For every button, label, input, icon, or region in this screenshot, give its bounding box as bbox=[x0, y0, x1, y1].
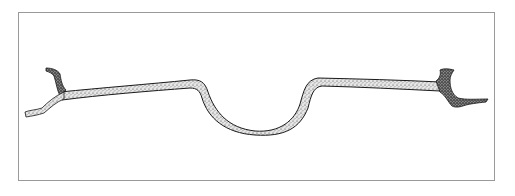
twig-left-upper-prong bbox=[46, 68, 66, 96]
branch-illustration bbox=[0, 0, 515, 196]
twig-main-stem bbox=[60, 78, 440, 135]
twig-left-lower-prong bbox=[25, 92, 64, 117]
twig-right-knot bbox=[436, 69, 488, 107]
